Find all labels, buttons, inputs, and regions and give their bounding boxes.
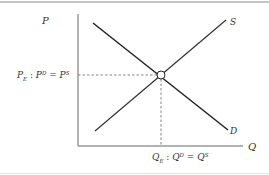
y-axis-label: P bbox=[41, 15, 49, 26]
equilibrium-price-label: PE : PD = PS bbox=[16, 70, 70, 82]
equilibrium-quantity-label: QE : QD = QS bbox=[152, 152, 209, 164]
demand-label: D bbox=[229, 126, 237, 136]
supply-demand-diagram: P Q D S PE : PD = PS QE : QD = QS bbox=[0, 0, 269, 175]
price-separator: : bbox=[27, 70, 36, 80]
quantity-equals: = bbox=[184, 152, 197, 162]
price-equals: = bbox=[46, 70, 59, 80]
x-axis-label: Q bbox=[248, 141, 256, 152]
equilibrium-point bbox=[157, 71, 165, 79]
quantity-separator: : bbox=[163, 152, 172, 162]
supply-label: S bbox=[230, 17, 236, 27]
price-supply-superscript: S bbox=[66, 70, 70, 76]
quantity-supply-superscript: S bbox=[205, 152, 209, 158]
